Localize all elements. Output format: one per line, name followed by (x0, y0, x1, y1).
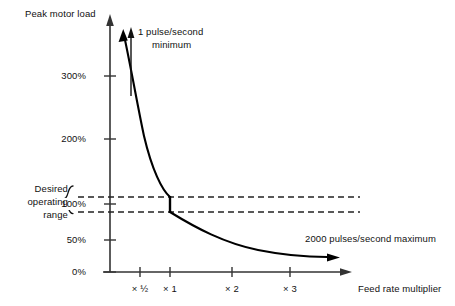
y-tick-label-0: 0% (48, 266, 86, 278)
operating-range-label-line2: operating (0, 195, 68, 208)
chart-canvas (0, 0, 455, 306)
y-axis-title: Peak motor load (25, 8, 96, 20)
maximum-annotation: 2000 pulses/second maximum (305, 232, 436, 245)
reference-lines (78, 197, 360, 212)
minimum-annotation-line1: 1 pulse/second (138, 25, 203, 38)
y-tick-label-50: 50% (48, 234, 86, 246)
minimum-annotation-line2: minimum (152, 38, 191, 51)
operating-range-label-line3: range (0, 208, 68, 221)
y-axis (106, 14, 114, 272)
chart-figure: Peak motor load Feed rate multiplier 300… (0, 0, 455, 306)
operating-range-label-line1: Desired (0, 182, 68, 195)
upper-branch-curve (119, 29, 170, 197)
y-tick-label-300: 300% (48, 70, 86, 82)
x-tick-label-2: × 2 (225, 283, 239, 295)
x-tick-label-3: × 3 (283, 283, 297, 295)
x-axis-title: Feed rate multiplier (358, 283, 441, 295)
x-tick-label-1: × 1 (163, 283, 177, 295)
y-tick-label-200: 200% (48, 133, 86, 145)
x-tick-label-half: × ½ (132, 283, 148, 295)
